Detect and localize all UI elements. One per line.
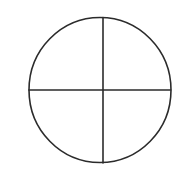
drawing-canvas <box>0 0 190 175</box>
quartered-circle-figure <box>0 0 190 175</box>
